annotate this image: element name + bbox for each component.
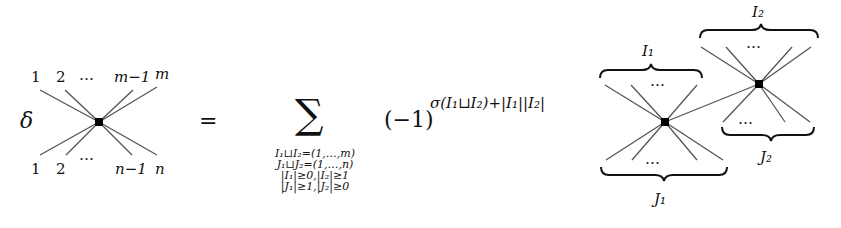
delta-operator: δ: [20, 108, 33, 133]
top-label-m-1: m−1: [114, 68, 150, 86]
sum-condition-4: |J₁|≥1,|J₂|≥0: [240, 181, 390, 192]
dots-J1: …: [645, 150, 663, 168]
edge-bottom-n: [99, 122, 157, 155]
bottom-label-dots: …: [79, 146, 97, 164]
bottom-label-1: 1: [31, 160, 41, 178]
dots-J2: …: [738, 110, 756, 128]
dots-I2: …: [746, 34, 764, 52]
label-I2: I₂: [752, 3, 764, 21]
label-J2: J₂: [760, 148, 772, 166]
vertex-left: [95, 118, 103, 126]
bottom-label-2: 2: [56, 160, 66, 178]
top-label-2: 2: [56, 68, 66, 86]
vertex-right-1: [661, 118, 669, 126]
sign-exponent: σ(I₁⊔I₂)+|I₁||I₂|: [430, 94, 545, 112]
sign-base: (−1): [384, 107, 434, 132]
edge-top-m-1: [99, 90, 133, 122]
equals-sign: =: [199, 108, 217, 133]
edge-top-m: [99, 87, 157, 122]
top-label-m: m: [155, 65, 169, 83]
sum-symbol: ∑: [295, 94, 324, 134]
dots-I1: …: [650, 72, 668, 90]
bottom-label-n-1: n−1: [115, 160, 147, 178]
top-label-dots: …: [79, 66, 97, 84]
bottom-label-n: n: [155, 160, 165, 178]
label-J1: J₁: [654, 190, 666, 208]
label-I1: I₁: [642, 42, 654, 60]
vertex-right-2: [755, 80, 763, 88]
top-label-1: 1: [31, 68, 41, 86]
sum-conditions: I₁⊔I₂=(1,…,m) J₁⊔J₂=(1,…,n) |I₁|≥0,|I₂|≥…: [240, 148, 390, 192]
